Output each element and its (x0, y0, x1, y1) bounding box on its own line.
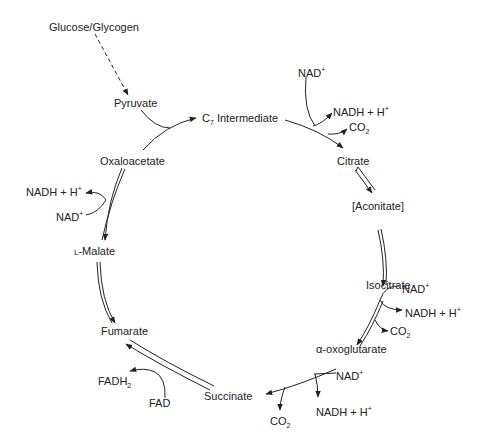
nad-label-4: NAD+ (56, 208, 83, 223)
oxaloacetate-to-c7-arrow (143, 118, 196, 150)
fad-label: FAD (149, 397, 170, 409)
nad-in-curve-1 (305, 77, 315, 126)
citrate-aconitate-eq-fwd (355, 170, 372, 193)
l-malate-label: L-Malate (74, 245, 115, 259)
c7-intermediate-label: C7 Intermediate (202, 112, 278, 129)
fadh2-out-arrow (130, 369, 155, 372)
co2-label-2: CO2 (390, 325, 410, 342)
malate-oxaloacetate-eq (105, 168, 122, 240)
glucose-glycogen-label: Glucose/Glycogen (49, 21, 139, 33)
co2-label-1: CO2 (349, 121, 369, 138)
oxaloacetate-label: Oxaloacetate (100, 155, 165, 167)
co2-out-arrow-3 (280, 387, 285, 410)
co2-out-arrow-1 (328, 129, 347, 134)
aoxo-to-succinate-arrow (266, 369, 336, 394)
fad-in-curve (155, 372, 165, 398)
nad-in-curve-4 (86, 200, 106, 215)
aconitate-label: [Aconitate] (352, 200, 404, 212)
nadh-label-4: NADH + H+ (26, 183, 82, 198)
glucose-to-pyruvate-arrow (95, 34, 128, 95)
alpha-oxoglutarate-label: α-oxoglutarate (316, 343, 387, 355)
co2-out-arrow-2 (375, 320, 388, 331)
nadh-out-arrow-1 (313, 113, 332, 126)
succinate-label: Succinate (204, 390, 252, 402)
nad-label-2: NAD+ (402, 280, 429, 295)
nadh-label-1: NADH + H+ (333, 103, 389, 118)
citrate-label: Citrate (337, 155, 369, 167)
citrate-aconitate-eq-rev (358, 167, 375, 190)
succinate-fumarate-eq (126, 344, 210, 390)
nad-label-1: NAD+ (298, 64, 325, 79)
nadh-label-2: NADH + H+ (405, 304, 461, 319)
pyruvate-label: Pyruvate (114, 97, 157, 109)
nad-label-3: NAD+ (336, 367, 363, 382)
fumarate-label: Fumarate (101, 325, 148, 337)
nadh-label-3: NADH + H+ (316, 403, 372, 418)
nad-in-curve-3 (314, 373, 336, 374)
fadh2-label: FADH2 (98, 375, 131, 392)
co2-label-3: CO2 (270, 415, 290, 432)
pyruvate-join-curve (141, 110, 170, 128)
nadh-out-arrow-4 (86, 192, 106, 200)
